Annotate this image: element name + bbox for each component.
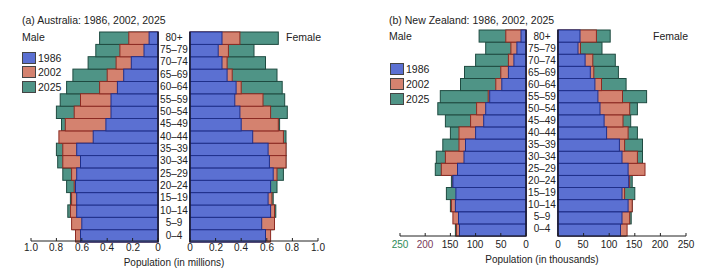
age-label: 45–49 <box>522 115 562 127</box>
male-label-new-zealand: Male <box>389 30 412 42</box>
legend-label-1986: 1986 <box>406 63 429 75</box>
tick-label: 200 <box>417 239 434 250</box>
age-label: 10–14 <box>522 199 562 211</box>
legend-label-2002: 2002 <box>406 78 429 90</box>
age-label: 65–69 <box>522 67 562 79</box>
age-label: 0–4 <box>522 223 562 235</box>
tick-label: 0 <box>523 239 529 250</box>
age-label: 40–44 <box>522 127 562 139</box>
tick-label: 250 <box>392 239 409 250</box>
tick-label: 100 <box>601 239 618 250</box>
legend-2002-new-zealand: 2002 <box>390 78 429 90</box>
legend-swatch-1986 <box>390 63 404 75</box>
tick-label: 150 <box>626 239 643 250</box>
tick-label: 200 <box>652 239 669 250</box>
age-label: 15–19 <box>522 187 562 199</box>
tick-label: 150 <box>442 239 459 250</box>
age-label: 25–29 <box>522 163 562 175</box>
panel-new-zealand: (b) New Zealand: 1986, 2002, 2025 Male F… <box>0 0 718 278</box>
age-label: 55–59 <box>522 91 562 103</box>
age-label: 30–34 <box>522 151 562 163</box>
tick-label: 250 <box>678 239 695 250</box>
age-label: 60–64 <box>522 79 562 91</box>
x-axis-title-new-zealand: Population (in thousands) <box>485 254 598 265</box>
legend-1986-new-zealand: 1986 <box>390 63 429 75</box>
age-label: 50–54 <box>522 103 562 115</box>
age-label: 70–74 <box>522 55 562 67</box>
age-label: 35–39 <box>522 139 562 151</box>
tick-label: 100 <box>467 239 484 250</box>
legend-swatch-2025 <box>390 93 404 105</box>
legend-label-2025: 2025 <box>406 93 429 105</box>
age-label: 80+ <box>522 31 562 43</box>
legend-2025-new-zealand: 2025 <box>390 93 429 105</box>
legend-swatch-2002 <box>390 78 404 90</box>
chart-title-new-zealand: (b) New Zealand: 1986, 2002, 2025 <box>389 14 554 26</box>
age-label: 5–9 <box>522 211 562 223</box>
age-label: 75–79 <box>522 43 562 55</box>
age-label: 20–24 <box>522 175 562 187</box>
tick-label: 0 <box>555 239 561 250</box>
tick-label: 50 <box>577 239 588 250</box>
tick-label: 50 <box>495 239 506 250</box>
female-label-new-zealand: Female <box>653 30 688 42</box>
